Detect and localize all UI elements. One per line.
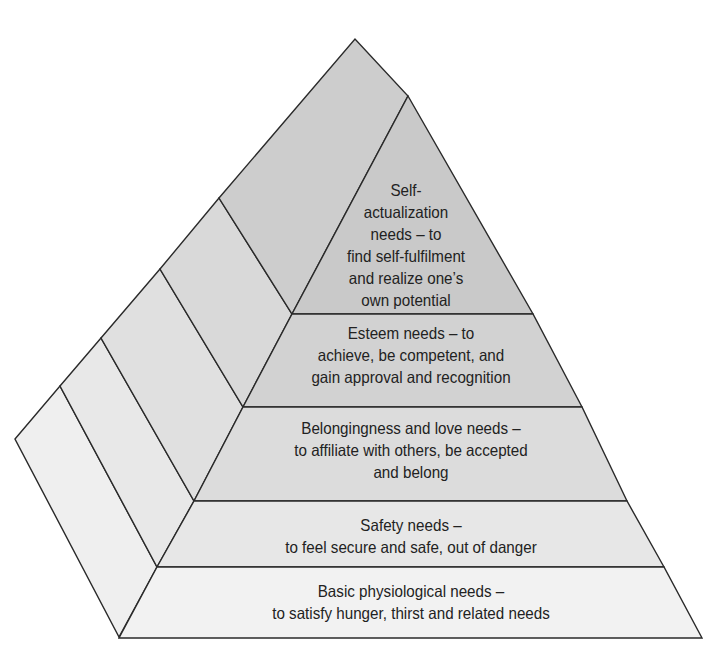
label-line: achieve, be competent, and	[291, 344, 530, 366]
label-line: Safety needs –	[268, 514, 553, 536]
level-self-actualization-label: Self- actualization needs – to find self…	[332, 179, 479, 311]
level-belongingness-label: Belongingness and love needs – to affili…	[268, 417, 553, 483]
label-line: and belong	[268, 461, 553, 483]
label-line: Belongingness and love needs –	[268, 417, 553, 439]
label-line: Self-	[332, 179, 479, 201]
label-line: Esteem needs – to	[291, 322, 530, 344]
label-line: actualization	[332, 201, 479, 223]
label-line: to feel secure and safe, out of danger	[268, 536, 553, 558]
level-esteem-label: Esteem needs – to achieve, be competent,…	[291, 322, 530, 388]
label-line: Basic physiological needs –	[250, 580, 572, 602]
label-line: to affiliate with others, be accepted	[268, 439, 553, 461]
label-line: to satisfy hunger, thirst and related ne…	[250, 602, 572, 624]
label-line: and realize one’s	[332, 267, 479, 289]
level-physiological-label: Basic physiological needs – to satisfy h…	[250, 580, 572, 624]
label-line: gain approval and recognition	[291, 366, 530, 388]
label-line: find self-fulfilment	[332, 245, 479, 267]
label-line: own potential	[332, 289, 479, 311]
level-safety-label: Safety needs – to feel secure and safe, …	[268, 514, 553, 558]
label-line: needs – to	[332, 223, 479, 245]
